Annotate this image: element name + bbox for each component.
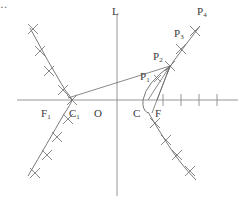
cross-marks-left-upper xyxy=(28,24,77,105)
label-focus-right-F: F xyxy=(155,108,161,119)
label-point-P4: P4 xyxy=(197,6,207,17)
label-vertex-right-C: C xyxy=(133,108,140,119)
ray-left-vertex-to-P2 xyxy=(68,66,170,98)
cross-marks-left-lower xyxy=(30,114,73,178)
geometry-figure xyxy=(0,0,248,203)
rays-at-P2 xyxy=(148,66,170,113)
label-point-P3: P3 xyxy=(174,28,184,39)
left-hyperbola-branch xyxy=(28,28,72,176)
label-vertex-left-C1: C1 xyxy=(69,108,80,119)
label-vertical-line-L: L xyxy=(112,6,119,17)
label-origin-O: O xyxy=(94,108,102,119)
label-point-P1: P1 xyxy=(140,71,150,82)
label-point-P2: P2 xyxy=(153,51,163,62)
label-focus-left-F1: F1 xyxy=(41,108,51,119)
